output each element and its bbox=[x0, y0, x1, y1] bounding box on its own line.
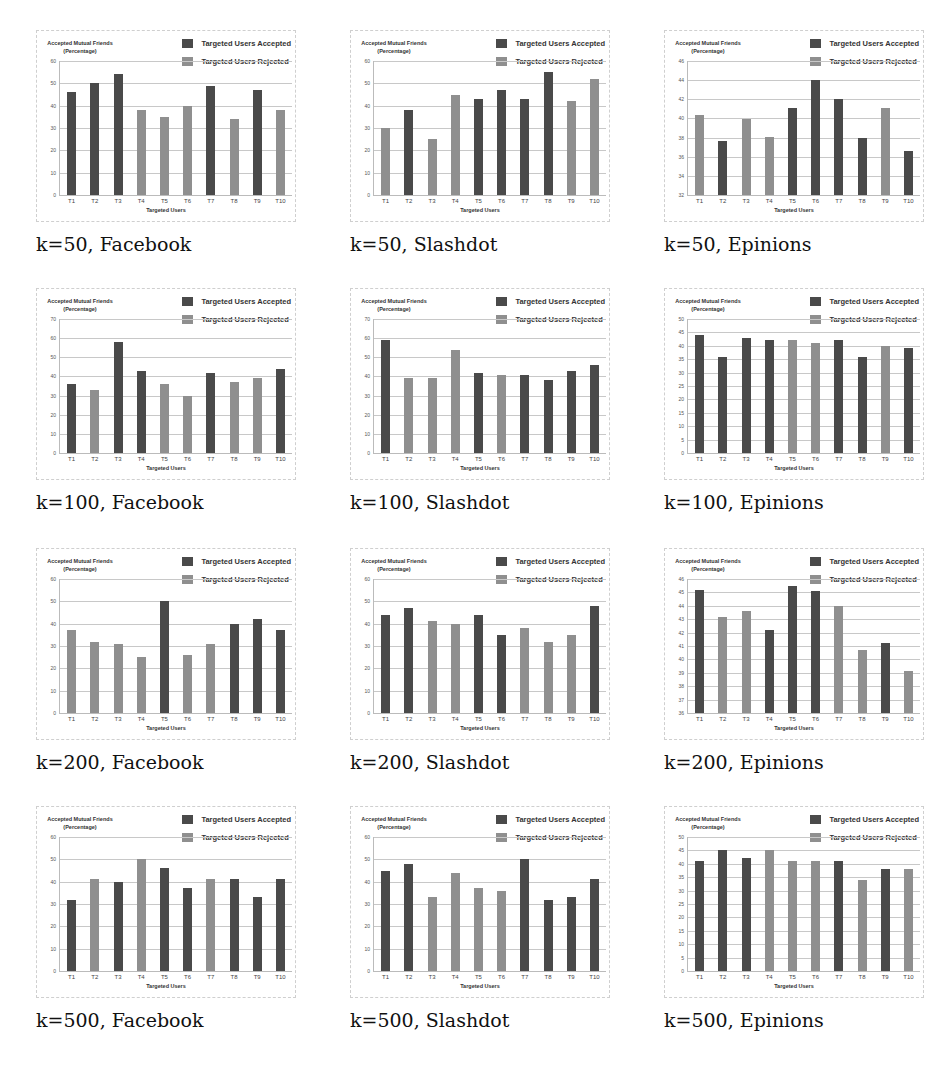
x-axis-title: Targeted Users bbox=[665, 465, 923, 471]
legend-label: Targeted Users Accepted bbox=[201, 557, 291, 566]
y-axis-title: Accepted Mutual Friends(Percentage) bbox=[359, 297, 429, 313]
y-tick-label: 50 bbox=[356, 856, 370, 862]
y-tick-label: 40 bbox=[356, 103, 370, 109]
gridline bbox=[60, 837, 292, 838]
x-tick-label: T10 bbox=[270, 974, 290, 980]
gridline bbox=[374, 859, 606, 860]
bar-accepted bbox=[544, 900, 553, 971]
y-axis-title: Accepted Mutual Friends(Percentage) bbox=[673, 39, 743, 55]
bar-accepted bbox=[904, 151, 913, 195]
y-tick-label: 50 bbox=[42, 856, 56, 862]
x-tick-label: T6 bbox=[178, 456, 198, 462]
bar-accepted bbox=[788, 586, 797, 713]
x-axis-title: Targeted Users bbox=[665, 983, 923, 989]
y-tick-label: 40 bbox=[356, 879, 370, 885]
bar-rejected bbox=[834, 606, 843, 713]
x-axis-title: Targeted Users bbox=[37, 983, 295, 989]
gridline bbox=[60, 338, 292, 339]
x-tick-label: T7 bbox=[515, 198, 535, 204]
x-axis-title: Targeted Users bbox=[665, 725, 923, 731]
bar-accepted bbox=[474, 99, 483, 195]
x-tick-label: T6 bbox=[492, 974, 512, 980]
gridline bbox=[60, 319, 292, 320]
x-axis-title: Targeted Users bbox=[351, 207, 609, 213]
x-tick-label: T3 bbox=[108, 974, 128, 980]
bar-accepted bbox=[230, 624, 239, 713]
x-tick-label: T9 bbox=[561, 198, 581, 204]
bar-rejected bbox=[137, 657, 146, 713]
bar-accepted bbox=[474, 373, 483, 453]
gridline bbox=[374, 837, 606, 838]
bar-accepted bbox=[567, 371, 576, 453]
bar-accepted bbox=[765, 630, 774, 713]
bar-accepted bbox=[114, 74, 123, 195]
chart-caption: k=100, Slashdot bbox=[350, 491, 509, 513]
x-tick-label: T5 bbox=[154, 198, 174, 204]
x-axis-title: Targeted Users bbox=[37, 465, 295, 471]
y-tick-label: 20 bbox=[42, 923, 56, 929]
x-tick-label: T2 bbox=[713, 974, 733, 980]
bar-rejected bbox=[451, 95, 460, 196]
x-tick-label: T8 bbox=[852, 456, 872, 462]
plot-area: 05101520253035404550T1T2T3T4T5T6T7T8T9T1… bbox=[687, 837, 920, 972]
y-tick-label: 60 bbox=[42, 834, 56, 840]
y-tick-label: 30 bbox=[42, 643, 56, 649]
bar-accepted bbox=[718, 850, 727, 971]
y-tick-label: 38 bbox=[670, 683, 684, 689]
gridline bbox=[60, 601, 292, 602]
x-tick-label: T9 bbox=[875, 716, 895, 722]
x-tick-label: T7 bbox=[515, 974, 535, 980]
legend-item-accepted: Targeted Users Accepted bbox=[182, 810, 291, 828]
gridline bbox=[688, 592, 920, 593]
y-tick-label: 30 bbox=[356, 643, 370, 649]
chart-caption: k=500, Slashdot bbox=[350, 1009, 509, 1031]
x-tick-label: T5 bbox=[782, 716, 802, 722]
x-tick-label: T2 bbox=[713, 456, 733, 462]
x-tick-label: T1 bbox=[376, 198, 396, 204]
bar-rejected bbox=[137, 110, 146, 195]
x-tick-label: T2 bbox=[85, 198, 105, 204]
bar-rejected bbox=[881, 346, 890, 453]
plot-area: 010203040506070T1T2T3T4T5T6T7T8T9T10 bbox=[59, 319, 292, 454]
y-tick-label: 0 bbox=[42, 450, 56, 456]
x-tick-label: T9 bbox=[561, 716, 581, 722]
y-axis-title: Accepted Mutual Friends(Percentage) bbox=[45, 557, 115, 573]
x-tick-label: T2 bbox=[85, 456, 105, 462]
plot-area: 0102030405060T1T2T3T4T5T6T7T8T9T10 bbox=[59, 61, 292, 196]
legend-item-accepted: Targeted Users Accepted bbox=[496, 810, 605, 828]
y-tick-label: 10 bbox=[42, 688, 56, 694]
x-tick-label: T3 bbox=[422, 716, 442, 722]
plot-area: 0102030405060T1T2T3T4T5T6T7T8T9T10 bbox=[373, 837, 606, 972]
x-tick-label: T4 bbox=[445, 198, 465, 204]
bar-accepted bbox=[520, 375, 529, 453]
bar-rejected bbox=[67, 630, 76, 713]
x-tick-label: T3 bbox=[736, 456, 756, 462]
x-tick-label: T4 bbox=[131, 716, 151, 722]
x-tick-label: T1 bbox=[62, 198, 82, 204]
bar-accepted bbox=[276, 879, 285, 971]
y-tick-label: 50 bbox=[356, 598, 370, 604]
bar-accepted bbox=[160, 601, 169, 713]
y-tick-label: 36 bbox=[670, 154, 684, 160]
y-tick-label: 37 bbox=[670, 697, 684, 703]
gridline bbox=[688, 99, 920, 100]
x-tick-label: T4 bbox=[445, 456, 465, 462]
chart-caption: k=500, Facebook bbox=[36, 1009, 203, 1031]
x-tick-label: T2 bbox=[399, 974, 419, 980]
y-tick-label: 10 bbox=[356, 688, 370, 694]
bar-rejected bbox=[695, 115, 704, 195]
y-tick-label: 10 bbox=[356, 946, 370, 952]
y-tick-label: 34 bbox=[670, 173, 684, 179]
y-tick-label: 30 bbox=[356, 901, 370, 907]
x-axis-title: Targeted Users bbox=[665, 207, 923, 213]
bar-accepted bbox=[695, 590, 704, 713]
bar-rejected bbox=[206, 644, 215, 713]
legend-label: Targeted Users Accepted bbox=[201, 297, 291, 306]
bar-rejected bbox=[497, 375, 506, 453]
x-tick-label: T8 bbox=[538, 198, 558, 204]
x-tick-label: T4 bbox=[131, 456, 151, 462]
x-tick-label: T1 bbox=[376, 974, 396, 980]
x-tick-label: T10 bbox=[584, 198, 604, 204]
x-tick-label: T10 bbox=[898, 716, 918, 722]
y-tick-label: 40 bbox=[356, 621, 370, 627]
